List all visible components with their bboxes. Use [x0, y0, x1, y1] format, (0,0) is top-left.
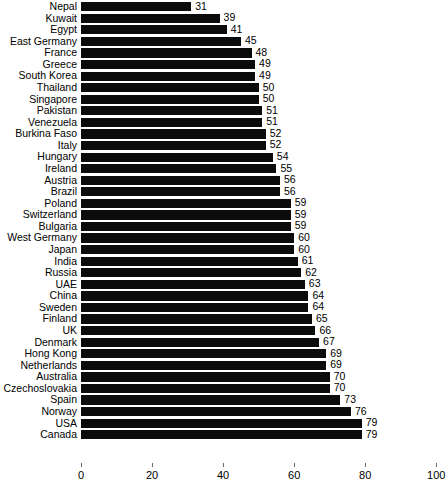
category-label: Ireland — [0, 163, 77, 174]
bar-value-label: 79 — [366, 429, 378, 440]
category-label: Canada — [0, 429, 77, 440]
bar-value-label: 67 — [323, 336, 335, 347]
bar-value-label: 56 — [284, 174, 296, 185]
x-axis-tick-label: 60 — [288, 469, 300, 482]
category-label: Nepal — [0, 1, 77, 12]
category-label: Thailand — [0, 82, 77, 93]
bar-row: Hong Kong69 — [0, 348, 448, 360]
bar-row: Ireland55 — [0, 163, 448, 175]
bar — [81, 326, 315, 335]
category-label: Pakistan — [0, 105, 77, 116]
bar-value-label: 50 — [263, 93, 275, 104]
bar — [81, 187, 280, 196]
bar — [81, 222, 291, 231]
bar — [81, 361, 326, 370]
x-axis-tick-label: 20 — [146, 469, 158, 482]
bar-value-label: 54 — [277, 151, 289, 162]
category-label: Brazil — [0, 186, 77, 197]
plot-area: Nepal31Kuwait39Egypt41East Germany45Fran… — [0, 0, 448, 493]
x-axis-tick — [436, 463, 437, 467]
bar — [81, 349, 326, 358]
bar — [81, 72, 255, 81]
bar-value-label: 63 — [309, 278, 321, 289]
x-axis-tick-label: 100 — [427, 469, 445, 482]
category-label: South Korea — [0, 70, 77, 81]
category-label: Egypt — [0, 24, 77, 35]
bar — [81, 338, 319, 347]
bar — [81, 25, 227, 34]
bar — [81, 118, 262, 127]
bar — [81, 395, 340, 404]
category-label: UK — [0, 325, 77, 336]
bar-value-label: 65 — [316, 313, 328, 324]
category-label: Spain — [0, 394, 77, 405]
x-axis-tick-label: 40 — [217, 469, 229, 482]
category-label: Russia — [0, 267, 77, 278]
bar — [81, 48, 252, 57]
bar-value-label: 59 — [295, 197, 307, 208]
x-axis-tick — [223, 463, 224, 467]
category-label: Switzerland — [0, 209, 77, 220]
bar — [81, 153, 273, 162]
x-axis-tick — [81, 463, 82, 467]
bar — [81, 430, 362, 439]
bar — [81, 303, 308, 312]
bar — [81, 419, 362, 428]
bar — [81, 164, 276, 173]
category-label: Burkina Faso — [0, 128, 77, 139]
bar — [81, 176, 280, 185]
bar-value-label: 61 — [302, 255, 314, 266]
x-axis-tick — [365, 463, 366, 467]
category-label: China — [0, 290, 77, 301]
bar-value-label: 76 — [355, 406, 367, 417]
bar — [81, 291, 308, 300]
bar — [81, 60, 255, 69]
category-label: Finland — [0, 313, 77, 324]
bar — [81, 83, 259, 92]
bar-value-label: 49 — [259, 70, 271, 81]
bar — [81, 14, 220, 23]
bar-chart: Nepal31Kuwait39Egypt41East Germany45Fran… — [0, 0, 448, 493]
bar — [81, 407, 351, 416]
bar — [81, 280, 305, 289]
x-axis-tick-label: 0 — [78, 469, 84, 482]
bar-row: Canada79 — [0, 429, 448, 441]
bar-value-label: 69 — [330, 359, 342, 370]
category-label: France — [0, 47, 77, 58]
bar — [81, 314, 312, 323]
bar-value-label: 41 — [231, 24, 243, 35]
bar — [81, 245, 294, 254]
bar — [81, 37, 241, 46]
bar-row: Brazil56 — [0, 186, 448, 198]
bar-value-label: 79 — [366, 417, 378, 428]
bar — [81, 129, 266, 138]
bar-row: Norway76 — [0, 406, 448, 418]
bar — [81, 233, 294, 242]
bar-value-label: 70 — [334, 382, 346, 393]
bar-row: Thailand50 — [0, 82, 448, 94]
bar-value-label: 56 — [284, 186, 296, 197]
bar — [81, 257, 298, 266]
category-label: Japan — [0, 244, 77, 255]
x-axis-tick-label: 80 — [359, 469, 371, 482]
bar-value-label: 51 — [266, 116, 278, 127]
bar-row: Russia62 — [0, 267, 448, 279]
bar — [81, 384, 330, 393]
category-label: Norway — [0, 406, 77, 417]
bar-value-label: 45 — [245, 35, 257, 46]
category-label: Hungary — [0, 151, 77, 162]
bar-row: Pakistan51 — [0, 105, 448, 117]
bar — [81, 372, 330, 381]
bar-value-label: 73 — [344, 394, 356, 405]
category-label: West Germany — [0, 232, 77, 243]
bar-row: UK66 — [0, 325, 448, 337]
bar — [81, 268, 301, 277]
bar-value-label: 39 — [224, 12, 236, 23]
bar — [81, 199, 291, 208]
bar-value-label: 60 — [298, 232, 310, 243]
bar — [81, 2, 191, 11]
bar-row: Egypt41 — [0, 24, 448, 36]
x-axis-tick — [152, 463, 153, 467]
category-label: Australia — [0, 371, 77, 382]
bar — [81, 95, 259, 104]
